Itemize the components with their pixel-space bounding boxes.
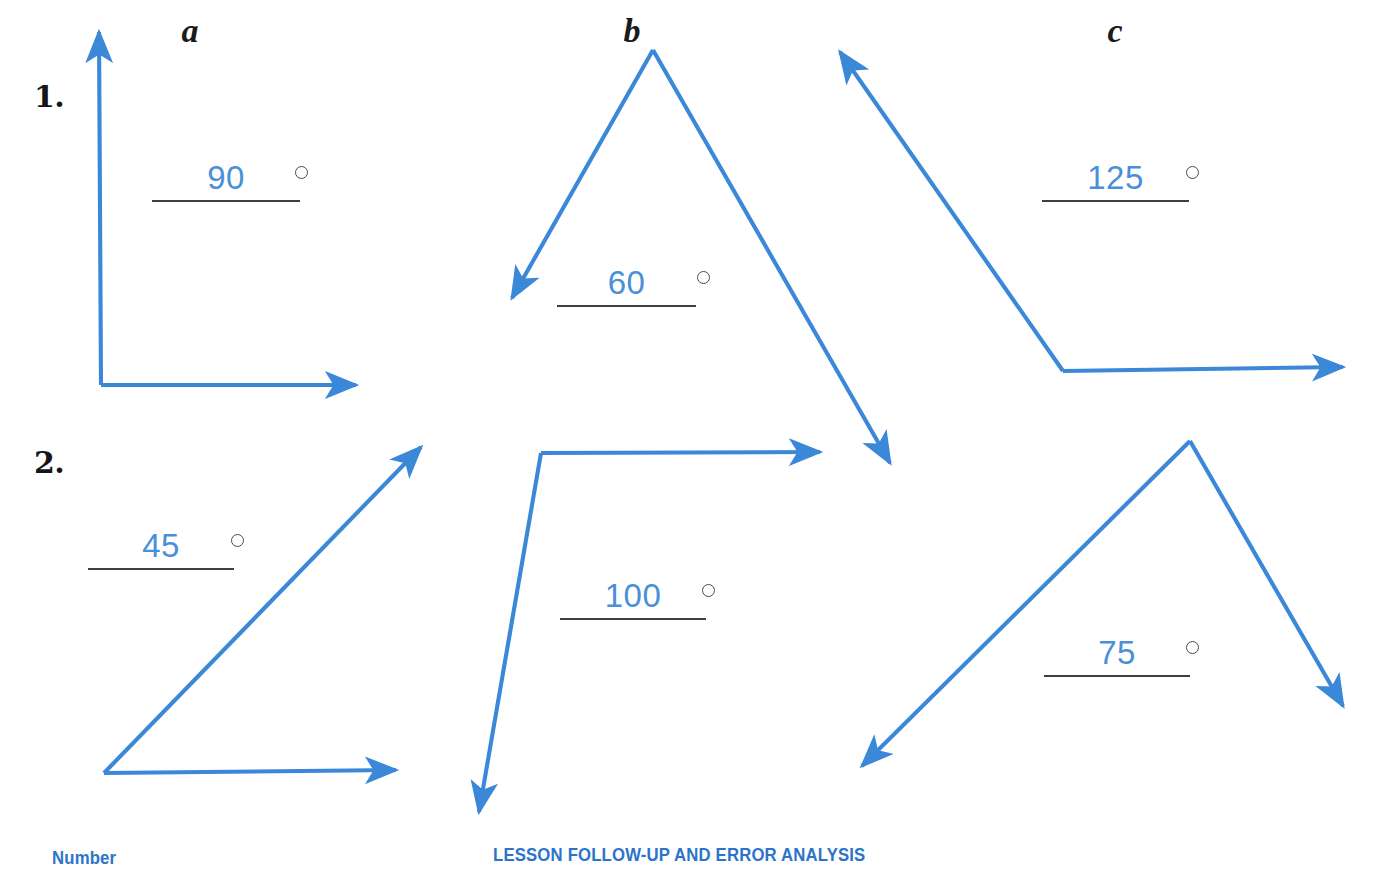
answer-rule-1b — [557, 305, 696, 307]
answer-rule-2c — [1044, 675, 1190, 677]
angle-figures-layer — [0, 0, 1375, 874]
angle-1b — [512, 50, 890, 463]
answer-slot-1b[interactable]: 60 — [557, 265, 696, 317]
footer-left-label: Number — [52, 848, 116, 867]
angle-2b-ray-down-left — [479, 453, 541, 812]
answer-value-2b: 100 — [560, 578, 706, 614]
angle-2a — [104, 447, 421, 773]
answer-slot-1a[interactable]: 90 — [152, 160, 300, 212]
answer-rule-2a — [88, 568, 234, 570]
angle-2b-ray-right — [541, 452, 820, 453]
degree-symbol-icon-2a — [231, 534, 244, 547]
column-header-a: a — [160, 14, 220, 48]
answer-rule-1a — [152, 200, 300, 202]
answer-value-1c: 125 — [1042, 160, 1189, 196]
row-number-2: 2. — [34, 448, 64, 478]
footer-section-title: LESSON FOLLOW-UP AND ERROR ANALYSIS — [493, 845, 865, 864]
answer-slot-2b[interactable]: 100 — [560, 578, 706, 630]
answer-value-2c: 75 — [1044, 635, 1190, 671]
answer-value-1b: 60 — [557, 265, 696, 301]
answer-rule-1c — [1042, 200, 1189, 202]
angle-2a-ray-right — [104, 770, 396, 773]
degree-symbol-icon-2b — [702, 584, 715, 597]
degree-symbol-icon-1c — [1186, 166, 1199, 179]
answer-slot-1c[interactable]: 125 — [1042, 160, 1189, 212]
degree-symbol-icon-1a — [295, 166, 308, 179]
angle-1c-ray-right — [1063, 367, 1343, 371]
answer-value-2a: 45 — [88, 528, 234, 564]
column-header-c: c — [1085, 14, 1145, 48]
angle-2a-ray-up-right — [104, 447, 421, 773]
angle-2c-ray-down-left — [862, 441, 1190, 766]
answer-rule-2b — [560, 618, 706, 620]
angle-2c-ray-down-right — [1190, 441, 1343, 706]
degree-symbol-icon-1b — [697, 271, 710, 284]
column-header-b: b — [602, 14, 662, 48]
angle-2c — [862, 441, 1343, 766]
angle-1c-ray-up-left — [840, 52, 1063, 371]
row-number-1: 1. — [34, 82, 64, 112]
angle-1a-ray-up — [99, 32, 101, 385]
angle-1b-ray-down-left — [512, 50, 653, 298]
worksheet-page: a b c 1. 2. 90601254510075 Number LESSON… — [0, 0, 1375, 874]
answer-slot-2c[interactable]: 75 — [1044, 635, 1190, 687]
angle-2b — [479, 452, 820, 812]
answer-value-1a: 90 — [152, 160, 300, 196]
answer-slot-2a[interactable]: 45 — [88, 528, 234, 580]
angle-1b-ray-down-right — [653, 50, 890, 463]
degree-symbol-icon-2c — [1186, 641, 1199, 654]
